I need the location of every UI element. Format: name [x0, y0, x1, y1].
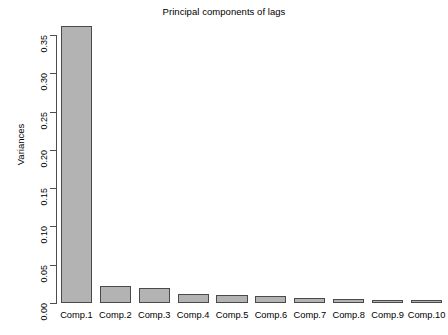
bar [100, 286, 131, 303]
bar [411, 300, 442, 303]
bar [294, 298, 325, 303]
screeplot-figure: Principal components of lags Variances 0… [0, 0, 448, 335]
bar [139, 288, 170, 303]
bar [61, 26, 92, 303]
x-axis-category-label: Comp.2 [96, 310, 135, 320]
x-axis-category-label: Comp.9 [368, 310, 407, 320]
x-axis-category-label: Comp.4 [174, 310, 213, 320]
x-axis-category-label: Comp.3 [135, 310, 174, 320]
x-axis-category-label: Comp.7 [290, 310, 329, 320]
bar [178, 294, 209, 303]
x-axis-category-label: Comp.8 [329, 310, 368, 320]
bar [255, 296, 286, 303]
bars-layer: Comp.1Comp.2Comp.3Comp.4Comp.5Comp.6Comp… [0, 0, 448, 335]
bar [216, 295, 247, 303]
x-axis-category-label: Comp.10 [407, 310, 446, 320]
bar [372, 300, 403, 303]
x-axis-category-label: Comp.6 [252, 310, 291, 320]
x-axis-category-label: Comp.1 [57, 310, 96, 320]
bar [333, 299, 364, 303]
x-axis-category-label: Comp.5 [213, 310, 252, 320]
